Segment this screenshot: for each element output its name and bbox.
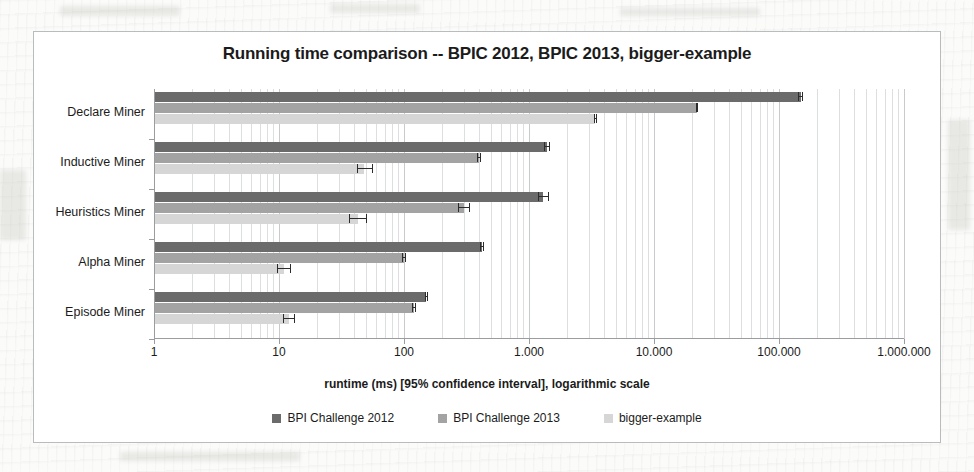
x-axis-tick-label: 1.000.000 xyxy=(877,345,930,359)
error-bar-cap-low xyxy=(349,214,350,223)
x-axis-tick-mark xyxy=(279,339,280,344)
legend-item[interactable]: BPI Challenge 2012 xyxy=(272,411,394,425)
error-bar-line xyxy=(349,218,368,219)
chart-category-row: Declare Miner xyxy=(154,89,904,139)
plot-area: 1101001.00010.000100.0001.000.000Declare… xyxy=(154,89,904,339)
error-bar-cap-low xyxy=(544,142,545,151)
bar-bpi-challenge-2012[interactable] xyxy=(154,92,801,102)
error-bar-cap-low xyxy=(480,242,481,251)
error-bar-cap-high xyxy=(548,192,549,201)
x-axis-title: runtime (ms) [95% confidence interval], … xyxy=(34,377,940,391)
error-bar-cap-high xyxy=(483,242,484,251)
y-axis-category-label: Inductive Miner xyxy=(15,155,145,169)
error-bar-cap-low xyxy=(402,253,403,262)
bar-bigger-example[interactable] xyxy=(154,214,358,224)
error-bar-cap-high xyxy=(802,92,803,101)
error-bar-cap-high xyxy=(415,303,416,312)
x-axis-tick-label: 10 xyxy=(272,345,285,359)
scan-artifact xyxy=(948,120,970,230)
bar-bpi-challenge-2012[interactable] xyxy=(154,242,482,252)
scan-artifact xyxy=(330,4,420,13)
y-axis-category-label: Declare Miner xyxy=(15,105,145,119)
bar-bigger-example[interactable] xyxy=(154,264,284,274)
scan-artifact xyxy=(60,6,180,16)
chart-legend: BPI Challenge 2012BPI Challenge 2013bigg… xyxy=(34,411,940,425)
error-bar xyxy=(538,192,549,201)
bar-bpi-challenge-2013[interactable] xyxy=(154,253,404,263)
x-axis-line xyxy=(154,338,904,339)
error-bar xyxy=(349,214,368,223)
error-bar-cap-high xyxy=(549,142,550,151)
bar-bpi-challenge-2013[interactable] xyxy=(154,153,479,163)
x-axis-tick-mark xyxy=(529,339,530,344)
y-axis-category-label: Heuristics Miner xyxy=(15,205,145,219)
chart-container: Running time comparison -- BPIC 2012, BP… xyxy=(33,31,941,443)
error-bar-line xyxy=(357,168,373,169)
error-bar xyxy=(277,264,291,273)
error-bar-cap-low xyxy=(283,314,284,323)
legend-label: BPI Challenge 2012 xyxy=(287,411,394,425)
error-bar xyxy=(458,203,470,212)
legend-label: BPI Challenge 2013 xyxy=(453,411,560,425)
scan-artifact xyxy=(120,452,300,461)
bar-bigger-example[interactable] xyxy=(154,114,595,124)
x-axis-tick-label: 100 xyxy=(394,345,414,359)
chart-category-row: Heuristics Miner xyxy=(154,189,904,239)
error-bar-cap-low xyxy=(458,203,459,212)
bar-bpi-challenge-2012[interactable] xyxy=(154,192,543,202)
x-axis-tick-label: 1 xyxy=(151,345,158,359)
x-axis-tick-mark xyxy=(654,339,655,344)
bar-bigger-example[interactable] xyxy=(154,314,289,324)
chart-category-row: Alpha Miner xyxy=(154,239,904,289)
error-bar-line xyxy=(277,268,291,269)
x-axis-tick-mark xyxy=(404,339,405,344)
error-bar-cap-low xyxy=(357,164,358,173)
error-bar-cap-high xyxy=(366,214,367,223)
error-bar xyxy=(480,242,484,251)
error-bar-cap-low xyxy=(277,264,278,273)
x-axis-tick-label: 100.000 xyxy=(757,345,800,359)
chart-category-row: Episode Miner xyxy=(154,289,904,339)
scan-artifact xyxy=(620,8,760,16)
error-bar-cap-high xyxy=(290,264,291,273)
error-bar xyxy=(283,314,295,323)
bar-bpi-challenge-2013[interactable] xyxy=(154,103,697,113)
legend-label: bigger-example xyxy=(619,411,702,425)
error-bar xyxy=(412,303,416,312)
bar-bpi-challenge-2012[interactable] xyxy=(154,142,547,152)
error-bar-cap-low xyxy=(412,303,413,312)
legend-swatch-icon xyxy=(604,414,613,423)
x-axis-tick-mark xyxy=(779,339,780,344)
legend-item[interactable]: BPI Challenge 2013 xyxy=(438,411,560,425)
error-bar-cap-low xyxy=(538,192,539,201)
error-bar xyxy=(798,92,803,101)
chart-category-row: Inductive Miner xyxy=(154,139,904,189)
error-bar-cap-high xyxy=(469,203,470,212)
legend-swatch-icon xyxy=(438,414,447,423)
error-bar xyxy=(696,103,699,112)
chart-title: Running time comparison -- BPIC 2012, BP… xyxy=(34,44,940,64)
error-bar-cap-high xyxy=(697,103,698,112)
error-bar xyxy=(357,164,373,173)
bar-bpi-challenge-2013[interactable] xyxy=(154,303,414,313)
error-bar-cap-high xyxy=(480,153,481,162)
error-bar xyxy=(425,292,428,301)
error-bar-cap-low xyxy=(425,292,426,301)
legend-swatch-icon xyxy=(272,414,281,423)
y-axis-category-label: Episode Miner xyxy=(15,305,145,319)
y-axis-tick-mark xyxy=(149,339,154,340)
error-bar xyxy=(544,142,549,151)
y-axis-line xyxy=(154,89,155,339)
bar-bpi-challenge-2012[interactable] xyxy=(154,292,426,302)
bar-bpi-challenge-2013[interactable] xyxy=(154,203,464,213)
x-axis-tick-label: 10.000 xyxy=(636,345,673,359)
error-bar-cap-low xyxy=(477,153,478,162)
error-bar-cap-high xyxy=(405,253,406,262)
error-bar xyxy=(477,153,481,162)
error-bar-cap-low xyxy=(798,92,799,101)
x-axis-tick-mark xyxy=(904,339,905,344)
error-bar-cap-high xyxy=(372,164,373,173)
bar-bigger-example[interactable] xyxy=(154,164,364,174)
error-bar-cap-high xyxy=(294,314,295,323)
legend-item[interactable]: bigger-example xyxy=(604,411,702,425)
